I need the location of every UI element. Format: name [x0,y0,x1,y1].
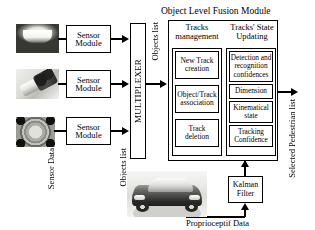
sensor-module-box-3[interactable]: Sensor Module [66,117,111,145]
arrow-proprioceptif-to-kalman [241,203,249,210]
vehicle-windshield-shape [148,178,193,192]
tracks-state-updating-header: Tracks' State Updating [226,23,278,41]
kalman-filter-label: Kalman Filter [233,181,258,199]
sensor-data-label: Sensor Data [46,148,56,189]
sensor-module-label-2: Sensor Module [75,76,101,93]
detection-recognition-confidences-label: Detection and recognition confidences [231,54,272,79]
arrow-fusion-to-output [291,88,298,96]
arrow-kalman-to-fusion [241,160,249,167]
vehicle-wheel-rear [185,202,198,212]
diagram-title: Object Level Fusion Module [161,6,271,16]
proprioceptif-data-label: Proprioceptif Data [186,218,249,228]
arrow-mux-to-fusion [160,80,167,88]
track-deletion-box[interactable]: Track deletion [175,119,219,147]
selected-pedestrian-list-label: Selected Pedestrian list [287,99,297,178]
connector-image-to-module-1 [58,38,67,40]
connector-mux-to-fusion [146,83,161,85]
sensor-module-label-3: Sensor Module [75,123,101,140]
detection-recognition-confidences-box[interactable]: Detection and recognition confidences [229,51,273,82]
sensor-module-box-2[interactable]: Sensor Module [66,70,111,98]
vehicle-wheel-front [136,202,149,212]
vehicle-headlight-right [189,195,199,201]
vehicle-photo [127,171,207,217]
lidar-sensor-image [16,69,59,99]
kinematical-state-label: Kinematical state [233,104,269,120]
vehicle-headlight-left [134,195,144,201]
new-track-creation-label: New Track creation [180,57,213,74]
kinematical-state-box[interactable]: Kinematical state [229,101,273,123]
connector-fusion-to-output [278,91,292,93]
sensor-module-label-1: Sensor Module [75,31,101,48]
objects-list-label-top: Objects list [150,22,160,60]
radar-sensor-image [16,117,55,147]
new-track-creation-box[interactable]: New Track creation [175,51,219,79]
arrow-module-to-mux-1 [122,35,129,43]
tracking-confidence-label: Tracking Confidence [234,128,268,144]
diagram-canvas: Object Level Fusion Module Sensor Module… [0,0,315,230]
arrow-module-to-mux-3 [122,127,129,135]
camera-sensor-image [16,24,59,53]
arrow-module-to-mux-2 [122,80,129,88]
track-deletion-label: Track deletion [185,125,209,142]
object-track-association-box[interactable]: Object/Track association [175,85,219,113]
object-track-association-label: Object/Track association [177,91,216,108]
dimension-label: Dimension [235,87,267,95]
dimension-box[interactable]: Dimension [229,84,273,99]
multiplexer-box[interactable]: MULTIPLEXER [130,23,146,159]
connector-image-to-module-2 [58,83,67,85]
connector-image-to-module-3 [54,130,67,132]
tracks-management-header: Tracks management [173,23,221,41]
tracking-confidence-box[interactable]: Tracking Confidence [229,125,273,147]
sensor-module-box-1[interactable]: Sensor Module [66,25,111,53]
kalman-filter-box[interactable]: Kalman Filter [228,176,263,203]
multiplexer-label: MULTIPLEXER [134,59,143,123]
